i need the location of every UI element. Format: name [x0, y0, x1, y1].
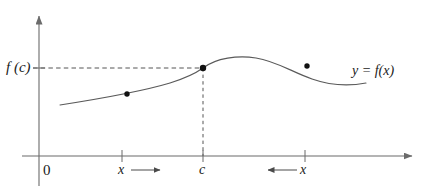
point-at-c: [200, 65, 206, 71]
function-curve-label: y = f(x): [352, 64, 394, 78]
figure-canvas: [0, 0, 424, 193]
x-tick-label-right: x: [300, 163, 306, 177]
x-tick-label-c: c: [199, 163, 205, 177]
curve-right-branch: [203, 57, 366, 85]
curve-left-branch: [60, 68, 203, 105]
y-axis-label-f-of-c: f (c): [6, 60, 31, 75]
origin-label: 0: [43, 163, 51, 178]
point-on-right-branch: [304, 63, 309, 68]
point-on-left-branch: [124, 91, 129, 96]
limit-continuity-figure: f (c) 0 x c x y = f(x): [0, 0, 424, 193]
x-tick-label-left: x: [118, 163, 124, 177]
